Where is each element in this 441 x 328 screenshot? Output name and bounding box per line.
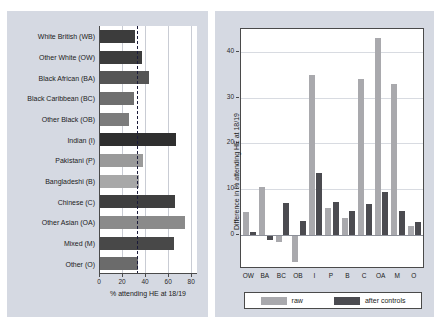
right-bar [375,38,381,235]
left-category-label: Black Caribbean (BC) [27,92,95,105]
left-x-tick-label: 20 [112,278,132,285]
right-bar [309,75,315,235]
left-axis-frame [99,26,197,274]
left-x-tick-mark [145,274,146,277]
right-bar [283,203,289,235]
right-category-label: O [403,272,425,279]
right-bar [342,218,348,235]
left-x-tick-mark [168,274,169,277]
left-category-label: Black African (BA) [39,72,95,85]
right-bar [366,204,372,235]
right-bar [391,84,397,235]
right-bar [399,211,405,235]
right-y-axis-title: Difference in % attending HE at 18/19 [233,92,240,252]
legend-label-raw: raw [292,297,303,304]
left-x-axis-title: % attending HE at 18/19 [99,290,197,297]
right-plot-frame [240,28,424,268]
left-category-label: Chinese (C) [58,196,95,209]
legend: raw after controls [244,292,422,309]
right-bar [408,226,414,235]
legend-label-after-controls: after controls [365,297,405,304]
left-x-tick-mark [122,274,123,277]
right-bar [300,221,306,235]
right-zero-line [241,235,423,236]
legend-swatch-after-controls [334,297,360,305]
right-bar [382,192,388,235]
left-category-label: Indian (I) [67,134,95,147]
right-bar [316,173,322,235]
right-y-tick-label: 40 [220,47,234,54]
legend-swatch-raw [261,297,287,305]
left-x-tick-label: 80 [181,278,201,285]
right-bar [349,211,355,235]
left-category-label: Bangladeshi (B) [45,175,95,188]
left-category-label: Other (O) [65,258,95,271]
right-bar [358,79,364,235]
figure-root: White British (WB)Other White (OW)Black … [0,0,441,328]
left-category-label: White British (WB) [38,30,95,43]
right-bar [276,235,282,242]
right-bar [292,235,298,262]
right-bar [333,202,339,235]
right-bar [243,212,249,235]
right-bar [325,208,331,235]
left-category-label: Other Asian (OA) [42,216,95,229]
left-category-label: Pakistani (P) [55,154,95,167]
left-category-label: Mixed (M) [64,237,95,250]
left-category-label: Other White (OW) [39,51,95,64]
right-bar [415,222,421,235]
left-x-tick-label: 0 [89,278,109,285]
left-x-tick-mark [191,274,192,277]
left-x-tick-mark [99,274,100,277]
left-x-tick-label: 40 [135,278,155,285]
right-gridline [241,52,423,53]
left-category-label: Other Black (OB) [42,113,95,126]
legend-item-after-controls: after controls [334,297,405,305]
legend-item-raw: raw [261,297,303,305]
left-x-tick-label: 60 [158,278,178,285]
right-bar [259,187,265,235]
right-y-tick-mark [236,51,239,52]
right-y-axis-title-wrap: Difference in % attending HE at 18/19 [222,60,232,240]
